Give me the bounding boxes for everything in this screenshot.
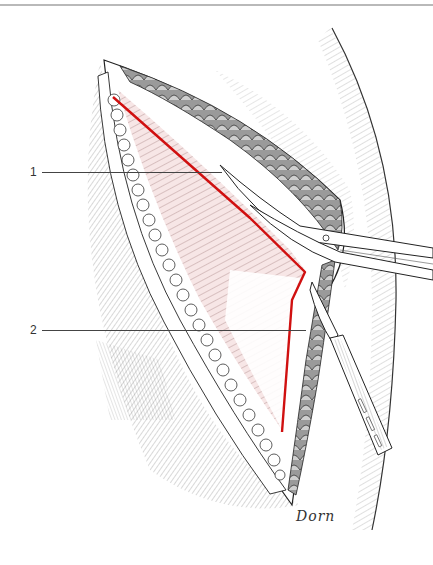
leader-line-1	[42, 172, 222, 173]
label-2: 2	[30, 324, 37, 336]
leader-line-2	[42, 330, 306, 331]
surgical-illustration	[0, 0, 433, 565]
label-1: 1	[30, 166, 37, 178]
artist-signature: Dorn	[296, 508, 335, 524]
